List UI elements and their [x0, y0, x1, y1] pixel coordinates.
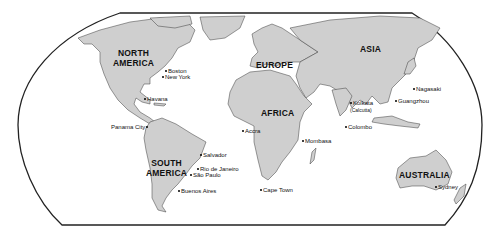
city-name: Cape Town: [263, 187, 293, 193]
city-name: Havana: [147, 96, 168, 102]
label-africa: AFRICA: [261, 108, 294, 118]
city-marker-icon: [190, 174, 192, 176]
city-name: Mombasa: [305, 138, 331, 144]
city-sydney: Sydney: [435, 184, 458, 191]
label-south-america-line1: SOUTH: [151, 158, 182, 168]
city-marker-icon: [302, 140, 304, 142]
city-guangzhou: Guangzhou: [395, 98, 429, 105]
city-marker-icon: [162, 76, 164, 78]
label-europe: EUROPE: [256, 60, 293, 70]
city-salvador: Salvador: [200, 152, 227, 159]
world-map: [0, 0, 494, 238]
label-south-america: SOUTH AMERICA: [146, 158, 187, 178]
city-name: Accra: [245, 128, 260, 134]
city-kolkata: Kolkata(Calcutta): [350, 100, 373, 114]
city-marker-icon: [413, 88, 415, 90]
city-marker-icon: [144, 98, 146, 100]
city-marker-icon: [350, 102, 352, 104]
city-marker-icon: [260, 189, 262, 191]
city-name: Salvador: [203, 152, 227, 158]
label-asia: ASIA: [360, 44, 381, 54]
city-name: New York: [165, 74, 190, 80]
city-name: Nagasaki: [416, 86, 441, 92]
city-mombasa: Mombasa: [302, 138, 331, 145]
city-name: Sydney: [438, 184, 458, 190]
label-north-america-line2: AMERICA: [113, 58, 154, 68]
label-north-america: NORTH AMERICA: [113, 48, 154, 68]
city-havana: Havana: [144, 96, 168, 103]
city-sao-paulo: São Paulo: [190, 172, 221, 179]
city-name: Buenos Aires: [181, 188, 216, 194]
city-accra: Accra: [242, 128, 260, 135]
label-north-america-line1: NORTH: [118, 48, 149, 58]
city-colombo: Colombo: [345, 124, 372, 131]
city-marker-icon: [200, 154, 202, 156]
city-buenos-aires: Buenos Aires: [178, 188, 216, 195]
city-marker-icon: [395, 100, 397, 102]
city-marker-icon: [165, 70, 167, 72]
city-marker-icon: [178, 190, 180, 192]
city-marker-icon: [242, 130, 244, 132]
city-name: Kolkata: [353, 100, 373, 106]
city-nagasaki: Nagasaki: [413, 86, 441, 93]
city-name: São Paulo: [193, 172, 221, 178]
city-note: (Calcutta): [350, 107, 373, 114]
city-cape-town: Cape Town: [260, 187, 293, 194]
city-marker-icon: [345, 126, 347, 128]
city-new-york: New York: [162, 74, 190, 81]
city-name: Colombo: [348, 124, 372, 130]
city-name: Guangzhou: [398, 98, 429, 104]
city-marker-icon: [435, 186, 437, 188]
city-marker-icon: [197, 168, 199, 170]
label-australia: AUSTRALIA: [399, 170, 450, 180]
label-south-america-line2: AMERICA: [146, 168, 187, 178]
city-panama-city: Panama City: [111, 124, 149, 131]
city-marker-icon: [146, 126, 148, 128]
city-name: Panama City: [111, 124, 145, 130]
